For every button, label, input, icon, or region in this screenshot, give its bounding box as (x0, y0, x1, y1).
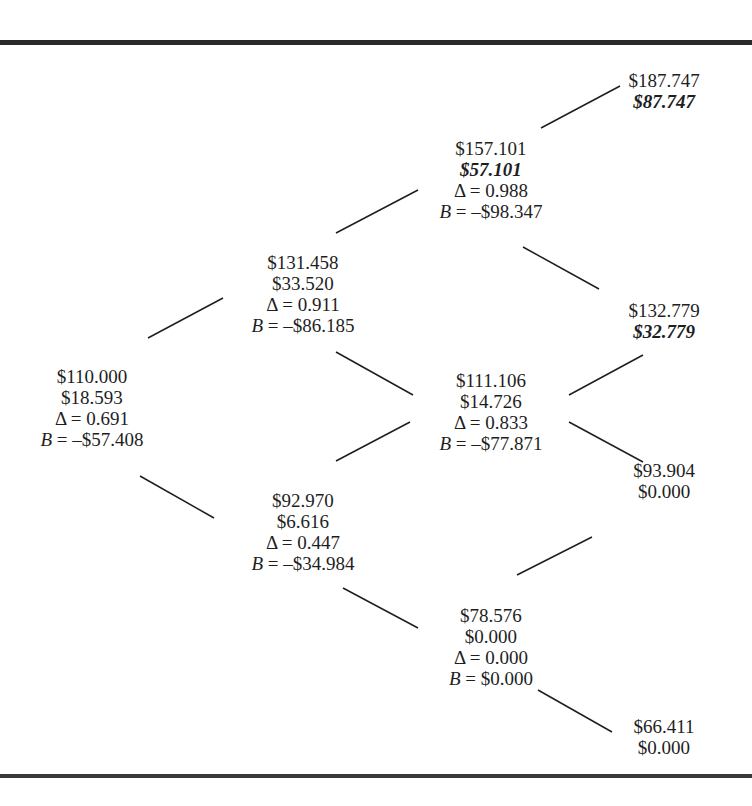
tree-node-dd2: $78.576$0.000Δ = 0.000B = $0.000 (449, 605, 533, 689)
node-value-line: $0.000 (633, 481, 695, 502)
variable-value: = –$57.408 (52, 429, 143, 450)
variable-label: B (40, 429, 52, 450)
node-value-line: B = $0.000 (449, 668, 533, 689)
node-value-line: $0.000 (633, 737, 694, 758)
tree-node-uud3: $132.779$32.779 (628, 300, 699, 342)
node-value-line: B = –$34.984 (251, 553, 354, 574)
node-value-line: $131.458 (251, 252, 354, 273)
variable-label: B (251, 315, 263, 336)
variable-label: B (439, 433, 451, 454)
node-value-line: $93.904 (633, 460, 695, 481)
tree-node-ddd3: $66.411$0.000 (633, 716, 694, 758)
node-value-line: Δ = 0.833 (439, 412, 542, 433)
node-value-line: $157.101 (439, 138, 542, 159)
node-value-line: $87.747 (628, 91, 699, 112)
node-value-line: $132.779 (628, 300, 699, 321)
edge-uu2-uud3 (523, 247, 599, 289)
node-value-line: Δ = 0.000 (449, 647, 533, 668)
node-value-line: $111.106 (439, 370, 542, 391)
tree-node-ud2: $111.106$14.726Δ = 0.833B = –$77.871 (439, 370, 542, 454)
edge-u1-uu2 (336, 190, 418, 233)
edge-n0-d1 (140, 476, 214, 518)
edge-n0-u1 (148, 298, 223, 338)
tree-node-d1: $92.970$6.616Δ = 0.447B = –$34.984 (251, 490, 354, 574)
node-value-line: $33.520 (251, 273, 354, 294)
edge-uu2-uuu3 (541, 86, 620, 128)
variable-value: = –$77.871 (451, 433, 542, 454)
node-value-line: B = –$77.871 (439, 433, 542, 454)
variable-value: = $0.000 (461, 668, 533, 689)
edge-dd2-ddd3 (538, 690, 612, 732)
edge-u1-ud2 (336, 352, 413, 395)
edge-d1-dd2 (343, 588, 418, 628)
node-value-line: Δ = 0.691 (40, 408, 143, 429)
edge-dd2-udd3 (517, 537, 592, 575)
variable-value: = –$34.984 (263, 553, 354, 574)
variable-label: B (439, 201, 451, 222)
variable-label: B (251, 553, 263, 574)
node-value-line: B = –$86.185 (251, 315, 354, 336)
tree-node-n0: $110.000$18.593Δ = 0.691B = –$57.408 (40, 366, 143, 450)
node-value-line: $78.576 (449, 605, 533, 626)
edge-ud2-udd3 (569, 422, 643, 462)
node-value-line: B = –$57.408 (40, 429, 143, 450)
node-value-line: $14.726 (439, 391, 542, 412)
node-value-line: $18.593 (40, 387, 143, 408)
tree-node-u1: $131.458$33.520Δ = 0.911B = –$86.185 (251, 252, 354, 336)
node-value-line: Δ = 0.911 (251, 294, 354, 315)
edge-d1-ud2 (336, 422, 410, 461)
edge-ud2-uud3 (569, 355, 643, 395)
node-value-line: $92.970 (251, 490, 354, 511)
tree-node-uu2: $157.101$57.101Δ = 0.988B = –$98.347 (439, 138, 542, 222)
node-value-line: $32.779 (628, 321, 699, 342)
node-value-line: $6.616 (251, 511, 354, 532)
node-value-line: $0.000 (449, 626, 533, 647)
node-value-line: $187.747 (628, 70, 699, 91)
node-value-line: B = –$98.347 (439, 201, 542, 222)
variable-label: B (449, 668, 461, 689)
node-value-line: $57.101 (439, 159, 542, 180)
node-value-line: $66.411 (633, 716, 694, 737)
node-value-line: $110.000 (40, 366, 143, 387)
variable-value: = –$98.347 (451, 201, 542, 222)
tree-node-udd3: $93.904$0.000 (633, 460, 695, 502)
tree-node-uuu3: $187.747$87.747 (628, 70, 699, 112)
node-value-line: Δ = 0.447 (251, 532, 354, 553)
node-value-line: Δ = 0.988 (439, 180, 542, 201)
variable-value: = –$86.185 (263, 315, 354, 336)
